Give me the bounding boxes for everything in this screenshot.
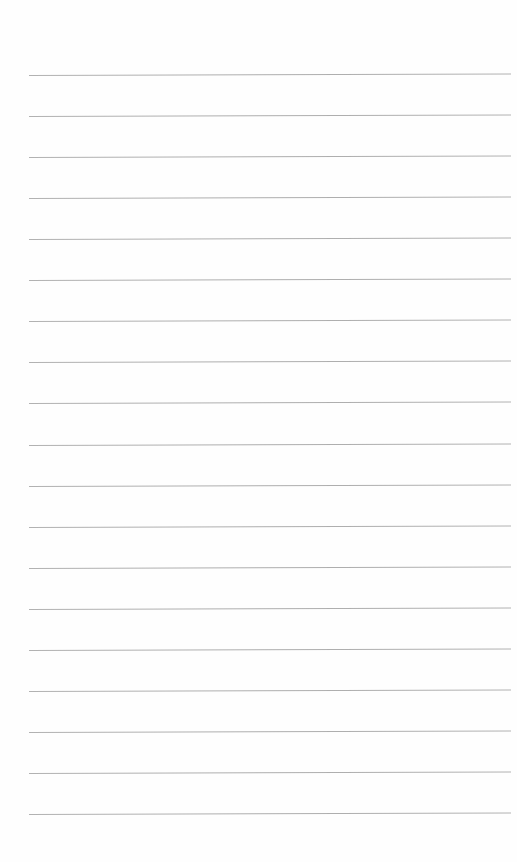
lined-paper-page xyxy=(0,0,517,862)
ruled-line xyxy=(29,401,511,404)
ruled-line xyxy=(29,443,511,446)
ruled-line xyxy=(29,360,511,363)
ruled-line xyxy=(29,278,511,281)
ruled-line xyxy=(29,812,511,815)
ruled-line xyxy=(29,196,511,199)
ruled-line xyxy=(29,525,511,528)
ruled-line xyxy=(29,566,511,569)
ruled-line xyxy=(29,73,511,76)
ruled-line xyxy=(29,689,511,692)
ruled-line xyxy=(29,155,511,158)
ruled-line xyxy=(29,237,511,240)
ruled-line xyxy=(29,648,511,651)
ruled-line xyxy=(29,114,511,117)
ruled-line xyxy=(29,771,511,774)
ruled-line xyxy=(29,484,511,487)
ruled-line xyxy=(29,319,511,322)
ruled-line xyxy=(29,607,511,610)
ruled-line xyxy=(29,730,511,733)
